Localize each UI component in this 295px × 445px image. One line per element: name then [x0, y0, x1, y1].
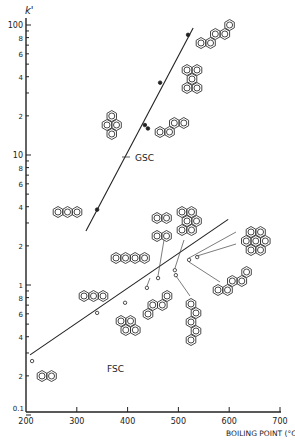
perylene-gsc-structure-icon [182, 65, 202, 94]
retention-vs-boiling-point-chart: 2468124681024681000.1 200300400500600700… [0, 0, 295, 445]
y-tick-label: 2 [19, 243, 23, 251]
molecule-structures [37, 20, 270, 382]
y-tick-label: 8 [19, 35, 23, 43]
fsc-data-point [187, 258, 190, 261]
x-axis-ticks: 200300400500600700 [18, 407, 287, 426]
y-tick-label: 4 [19, 334, 24, 342]
gsc-data-point [158, 81, 162, 85]
gsc-data-point [146, 127, 150, 131]
tetracene-structure-icon [111, 253, 149, 264]
anthracene-gsc-structure-icon [53, 207, 82, 218]
fsc-leader-lines [147, 232, 236, 296]
fsc-data-point [30, 359, 33, 362]
y-tick-label: 1 [19, 282, 23, 290]
fsc-data-point [173, 268, 176, 271]
fsc-data-point [145, 286, 148, 289]
y-tick-label: 6 [19, 311, 24, 319]
y-tick-label: 8 [19, 295, 23, 303]
fsc-fit-line [30, 219, 228, 355]
data-points [30, 33, 199, 363]
fit-lines [30, 28, 228, 355]
y-axis-title: k' [25, 5, 34, 16]
y-tick-label: 4 [19, 74, 24, 82]
naphthalene-structure-icon [37, 371, 56, 382]
x-tick-label: 500 [171, 417, 186, 426]
x-tick-label: 300 [69, 417, 84, 426]
y-tick-label: 0.1 [13, 405, 24, 413]
x-tick-label: 600 [222, 417, 237, 426]
y-tick-label: 2 [19, 373, 23, 381]
gsc-label: GSC [135, 153, 154, 163]
dibenzanthracene-gsc-structure-icon [196, 20, 234, 49]
fsc-data-point [123, 301, 126, 304]
triphenylene-structure-icon [102, 111, 121, 140]
gsc-data-point [186, 33, 190, 37]
y-tick-label: 100 [8, 21, 23, 30]
y-tick-label: 8 [19, 165, 23, 173]
anthracene-fsc-structure-icon [79, 291, 108, 302]
y-tick-label: 6 [19, 51, 24, 59]
x-tick-label: 400 [120, 417, 135, 426]
benzoperylene-lower-structure-icon [186, 299, 201, 346]
fsc-data-point [95, 311, 98, 314]
gsc-data-point [143, 123, 147, 127]
y-tick-label: 10 [13, 151, 23, 160]
x-tick-label: 700 [272, 417, 287, 426]
perylene-fsc-structure-icon [152, 213, 171, 242]
fsc-label: FSC [107, 364, 124, 374]
y-tick-label: 6 [19, 181, 24, 189]
x-tick-label: 200 [18, 417, 33, 426]
coronene-structure-icon [242, 227, 271, 256]
y-axis-ticks: 2468124681024681000.1 [8, 21, 31, 415]
y-tick-label: 2 [19, 113, 23, 121]
x-axis-title: BOILING POINT (°C) [226, 429, 295, 438]
chrysene-gsc-structure-icon [155, 118, 188, 138]
gsc-data-point [95, 208, 99, 212]
chrysene-fsc-structure-icon [143, 291, 172, 320]
benzoperylene-fsc-structure-icon [177, 207, 201, 236]
gsc-fit-line [86, 28, 193, 231]
y-tick-label: 4 [19, 204, 24, 212]
pyrene-structure-icon [116, 316, 140, 336]
fsc-data-point [156, 276, 159, 279]
